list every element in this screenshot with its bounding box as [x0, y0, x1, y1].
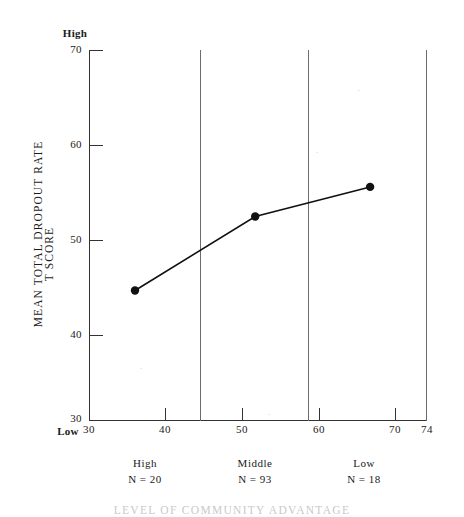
scan-speckle: [268, 414, 270, 415]
series-line: [135, 187, 370, 291]
data-series: [0, 0, 464, 517]
data-point-2: [366, 183, 374, 191]
data-point-1: [251, 212, 259, 220]
chart-figure: High Low 70 60 50 40 30 MEAN TOTAL DROPO…: [0, 0, 464, 517]
scan-speckle: [140, 368, 142, 369]
scan-speckle: [316, 152, 318, 153]
series-markers: [131, 183, 374, 295]
data-point-0: [131, 286, 139, 294]
scan-speckle: [358, 90, 360, 91]
